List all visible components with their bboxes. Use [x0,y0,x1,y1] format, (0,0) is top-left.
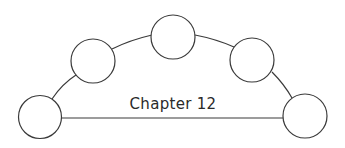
node-circle-2 [71,39,115,83]
arc-connector-1-2 [52,75,76,99]
arc-diagram [0,0,345,148]
node-circle-4 [230,38,274,82]
diagram-canvas: Chapter 12 [0,0,345,148]
node-circle-1 [19,96,62,139]
arc-connector-2-3 [112,35,152,49]
node-circle-5 [283,94,327,138]
arc-connector-4-5 [272,72,292,98]
node-circle-3 [151,15,195,59]
arc-connector-3-4 [195,35,234,47]
diagram-title: Chapter 12 [118,95,228,113]
